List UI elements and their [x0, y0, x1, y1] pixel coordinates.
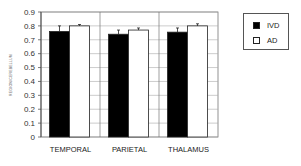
y-tick-label: 0.5: [24, 63, 36, 72]
bars: [50, 24, 208, 137]
y-tick-label: 0.7: [24, 36, 36, 45]
legend: IVD AD: [243, 13, 289, 50]
y-axis-label: REGION/CEREBELLUM: [9, 54, 13, 96]
category-label-parietal: PARIETAL: [112, 145, 147, 154]
y-tick-label: 0.9: [24, 8, 36, 17]
y-tick-label: 0: [31, 133, 36, 142]
legend-item-ad: AD: [253, 36, 277, 45]
y-tick-label: 0.2: [24, 105, 36, 114]
bar-ivd-temporal: [50, 31, 70, 137]
y-tick-label: 0.4: [24, 77, 36, 86]
bar-ad-thalamus: [188, 26, 208, 137]
category-label-temporal: TEMPORAL: [50, 145, 91, 154]
y-axis: 00.10.20.30.40.50.60.70.80.9: [24, 8, 41, 142]
legend-label-ivd: IVD: [267, 21, 280, 30]
legend-item-ivd: IVD: [253, 21, 280, 30]
ivd-swatch-icon: [253, 22, 260, 29]
bar-ad-temporal: [70, 26, 90, 137]
y-tick-label: 0.8: [24, 22, 36, 31]
ad-swatch-icon: [253, 37, 260, 44]
legend-label-ad: AD: [267, 36, 277, 45]
x-axis-labels: TEMPORALPARIETALTHALAMUS: [50, 145, 209, 154]
bar-ivd-parietal: [109, 34, 129, 137]
bar-ad-parietal: [129, 30, 149, 137]
y-tick-label: 0.3: [24, 91, 36, 100]
bar-ivd-thalamus: [168, 32, 188, 137]
y-tick-label: 0.1: [24, 119, 36, 128]
y-tick-label: 0.6: [24, 49, 36, 58]
category-label-thalamus: THALAMUS: [168, 145, 209, 154]
